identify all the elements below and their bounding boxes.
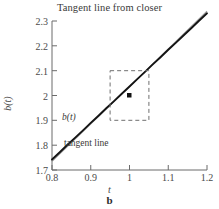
y-tick-label: 1.8 (4, 140, 48, 151)
figure-panel: Tangent line from closer (0, 0, 219, 209)
curve-annotation: b(t) (62, 112, 76, 122)
x-tick-label: 1 (127, 172, 132, 183)
x-tick-label: 0.8 (46, 172, 59, 183)
panel-caption: b (0, 194, 219, 206)
y-axis-ticks (52, 21, 57, 170)
y-tick-label: 2.2 (4, 40, 48, 51)
x-axis-ticks (52, 165, 207, 170)
y-tick-label: 1.7 (4, 165, 48, 176)
x-tick-label: 1.2 (201, 172, 214, 183)
y-tick-label: 2.1 (4, 65, 48, 76)
x-tick-label: 1.1 (162, 172, 175, 183)
tangent-point-marker (127, 93, 132, 98)
plot-canvas (0, 0, 219, 209)
y-tick-label: 2.3 (4, 16, 48, 27)
x-tick-label: 0.9 (85, 172, 98, 183)
tangent-annotation: tangent line (64, 138, 109, 148)
y-axis-label: b(t) (2, 84, 13, 124)
